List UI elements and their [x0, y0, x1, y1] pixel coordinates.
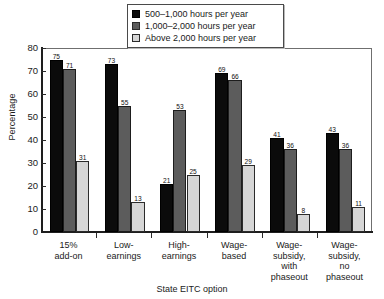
bar-value-label: 11	[355, 200, 362, 207]
x-axis-title: State EITC option	[0, 284, 384, 294]
x-axis-tick-mark	[317, 233, 318, 238]
bar-group: 735513	[105, 48, 145, 232]
bar-value-label: 69	[218, 66, 225, 73]
bar-chart: Percentage 80706050403020100 75713173551…	[0, 0, 384, 299]
bar-value-label: 75	[53, 53, 60, 60]
bar: 11	[352, 207, 365, 232]
legend-swatch-icon	[132, 22, 140, 30]
bar: 13	[131, 202, 144, 232]
bar: 43	[326, 133, 339, 232]
x-axis-category-label: Low-earnings	[96, 240, 151, 261]
y-axis-tick-label: 50	[14, 112, 38, 121]
bar-group: 433611	[326, 48, 366, 232]
bar: 29	[242, 165, 255, 232]
bar: 71	[63, 69, 76, 232]
x-axis-category-label: 15%add-on	[41, 240, 96, 261]
legend-item: Above 2,000 hours per year	[132, 32, 278, 44]
x-axis-tick-mark	[262, 233, 263, 238]
y-axis-tick-label: 80	[14, 43, 38, 52]
bar: 41	[270, 138, 283, 232]
bar: 36	[339, 149, 352, 232]
bar-value-label: 66	[231, 73, 238, 80]
bar: 21	[160, 184, 173, 232]
bar: 69	[215, 73, 228, 232]
legend-swatch-icon	[132, 10, 140, 18]
legend-item: 1,000–2,000 hours per year	[132, 20, 278, 32]
bar-value-label: 73	[108, 57, 115, 64]
bar: 66	[228, 80, 241, 232]
bar-value-label: 36	[287, 142, 294, 149]
y-axis-tick-label: 20	[14, 181, 38, 190]
bar: 8	[297, 214, 310, 232]
x-axis-category-label: Wage-based	[207, 240, 262, 261]
x-axis-category-label: Wage-subsidy,withphaseout	[262, 240, 317, 282]
bar-value-label: 53	[176, 103, 183, 110]
bar-group: 215325	[160, 48, 200, 232]
bar: 75	[50, 60, 63, 233]
bar: 36	[284, 149, 297, 232]
x-axis-tick-mark	[207, 233, 208, 238]
bar: 73	[105, 64, 118, 232]
x-axis-category-label: High-earnings	[151, 240, 206, 261]
bar-value-label: 31	[79, 154, 86, 161]
legend-swatch-icon	[132, 34, 140, 42]
y-axis-tick-label: 30	[14, 158, 38, 167]
bar-group: 696629	[215, 48, 255, 232]
legend-item: 500–1,000 hours per year	[132, 8, 278, 20]
bars-layer: 75713173551321532569662941368433611	[41, 48, 372, 232]
legend-item-label: 1,000–2,000 hours per year	[145, 21, 256, 32]
bar-group: 757131	[50, 48, 90, 232]
bar: 55	[118, 106, 131, 233]
x-axis-tick-mark	[96, 233, 97, 238]
y-axis-tick-label: 40	[14, 135, 38, 144]
bar-value-label: 71	[66, 62, 73, 69]
x-axis-category-label: Wage-subsidy,nophaseout	[317, 240, 372, 282]
legend-item-label: Above 2,000 hours per year	[145, 33, 256, 44]
bar: 25	[187, 175, 200, 233]
y-axis-tick-label: 70	[14, 66, 38, 75]
y-axis-tick-label: 60	[14, 89, 38, 98]
bar-value-label: 41	[273, 131, 280, 138]
y-axis-tick-label: 10	[14, 204, 38, 213]
bar-value-label: 13	[134, 195, 141, 202]
bar-value-label: 8	[302, 207, 306, 214]
bar-value-label: 43	[329, 126, 336, 133]
bar: 31	[76, 161, 89, 232]
bar: 53	[173, 110, 186, 232]
x-axis-tick-mark	[151, 233, 152, 238]
bar-value-label: 36	[342, 142, 349, 149]
bar-value-label: 55	[121, 99, 128, 106]
bar-group: 41368	[270, 48, 310, 232]
y-axis-tick-label: 0	[14, 227, 38, 236]
legend-item-label: 500–1,000 hours per year	[145, 9, 248, 20]
bar-value-label: 29	[245, 158, 252, 165]
bar-value-label: 21	[163, 177, 170, 184]
legend: 500–1,000 hours per year 1,000–2,000 hou…	[127, 4, 284, 48]
bar-value-label: 25	[189, 168, 196, 175]
